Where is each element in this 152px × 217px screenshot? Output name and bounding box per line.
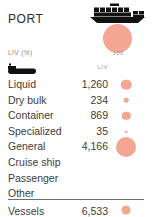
footer-total-value: 6,533 — [82, 205, 108, 217]
row-dot-cell — [110, 171, 142, 187]
row-dot-cell — [110, 93, 142, 109]
row-dot-cell — [110, 155, 142, 171]
footer-dot-cell — [110, 203, 142, 217]
proportional-circle — [122, 112, 131, 121]
proportional-circle — [122, 206, 131, 215]
vessel-type-table: LIV Liquid 1,260 Dry bulk 234 Container … — [0, 60, 152, 202]
row-value: 35 — [96, 125, 108, 137]
proportional-circle — [125, 130, 128, 133]
header-value-bubble — [103, 24, 132, 53]
container-ship-icon — [88, 2, 146, 24]
port-statistics-card: PORT 100 — [0, 0, 152, 217]
row-label: Cruise ship — [8, 156, 61, 168]
row-value: 1,260 — [82, 78, 108, 90]
table-row[interactable]: Container 869 — [0, 108, 152, 124]
table-row[interactable]: Cruise ship — [0, 155, 152, 171]
row-label: General — [8, 140, 45, 152]
column-header-liv: LIV — [97, 64, 108, 70]
row-label: Dry bulk — [8, 94, 47, 106]
row-label: Specialized — [8, 125, 62, 137]
row-dot-cell — [110, 108, 142, 124]
tanker-boat-icon — [6, 62, 40, 75]
footer-divider — [8, 199, 144, 200]
row-dot-cell — [110, 77, 142, 93]
row-dot-cell — [110, 139, 142, 155]
row-value: 234 — [90, 94, 108, 106]
unit-label: LIV (%) — [8, 49, 32, 56]
row-label: Other — [8, 187, 34, 199]
proportional-circle — [121, 80, 132, 91]
row-value: 869 — [90, 109, 108, 121]
table-row[interactable]: Liquid 1,260 — [0, 77, 152, 93]
header-bubble-value: 100 — [95, 50, 141, 56]
row-label: Liquid — [8, 78, 36, 90]
table-row[interactable]: General 4,166 — [0, 139, 152, 155]
table-header-row: LIV — [0, 60, 152, 77]
card-header: PORT 100 — [0, 0, 152, 56]
row-label: Container — [8, 109, 54, 121]
table-row[interactable]: Passenger — [0, 171, 152, 187]
proportional-circle — [124, 98, 129, 103]
row-label: Passenger — [8, 172, 58, 184]
row-value: 4,166 — [82, 140, 108, 152]
footer-total-label: Vessels — [8, 205, 44, 217]
table-row[interactable]: Dry bulk 234 — [0, 93, 152, 109]
page-title: PORT — [8, 12, 44, 26]
